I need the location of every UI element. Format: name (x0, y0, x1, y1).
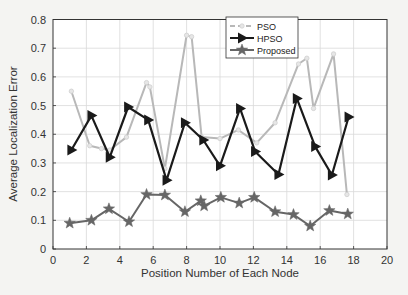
data-point-pso (296, 62, 300, 66)
data-point-pso (311, 106, 315, 110)
x-tick-label: 4 (117, 254, 123, 266)
legend-marker (240, 24, 244, 28)
line-chart: 02468101214161820 00.10.20.30.40.50.60.7… (0, 0, 408, 295)
y-tick-label: 0.2 (31, 186, 46, 198)
data-point-pso (184, 33, 188, 37)
legend-label: HPSO (257, 34, 283, 44)
y-axis: 00.10.20.30.40.50.60.70.8 (31, 14, 56, 256)
x-tick-label: 12 (247, 254, 259, 266)
data-point-pso (99, 146, 103, 150)
x-tick-label: 2 (83, 254, 89, 266)
x-axis-title: Position Number of Each Node (141, 267, 299, 279)
x-tick-label: 10 (214, 254, 226, 266)
data-point-pso (124, 135, 128, 139)
data-point-pso (148, 85, 152, 89)
x-tick-label: 0 (50, 254, 56, 266)
data-point-pso (88, 144, 92, 148)
x-tick-label: 8 (184, 254, 190, 266)
x-tick-label: 6 (150, 254, 156, 266)
legend-label: PSO (257, 22, 276, 32)
data-point-pso (69, 89, 73, 93)
x-tick-label: 20 (381, 254, 393, 266)
data-point-pso (331, 52, 335, 56)
data-point-pso (305, 56, 309, 60)
data-point-pso (189, 35, 193, 39)
legend-label: Proposed (257, 46, 296, 56)
x-tick-label: 14 (281, 254, 293, 266)
legend: PSOHPSOProposed (226, 17, 298, 58)
y-tick-label: 0.1 (31, 214, 46, 226)
data-point-pso (273, 121, 277, 125)
y-tick-label: 0.8 (31, 14, 46, 26)
y-tick-label: 0 (40, 243, 46, 255)
y-tick-label: 0.6 (31, 71, 46, 83)
y-axis-title: Average Localization Error (7, 66, 19, 201)
x-tick-label: 18 (347, 254, 359, 266)
x-tick-label: 16 (314, 254, 326, 266)
data-point-pso (345, 192, 349, 196)
data-point-pso (218, 136, 222, 140)
y-tick-label: 0.5 (31, 100, 46, 112)
y-tick-label: 0.4 (31, 128, 46, 140)
data-point-pso (236, 128, 240, 132)
data-point-pso (255, 141, 259, 145)
y-tick-label: 0.7 (31, 42, 46, 54)
data-point-pso (144, 80, 148, 84)
y-tick-label: 0.3 (31, 157, 46, 169)
